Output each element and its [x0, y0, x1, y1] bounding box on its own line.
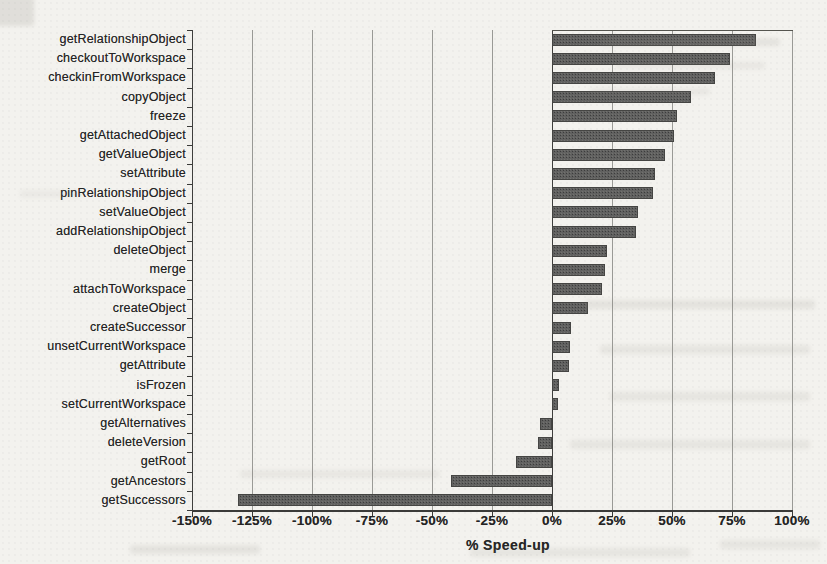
y-axis-tick — [187, 280, 192, 281]
y-axis-tick — [187, 49, 192, 50]
bar-deleteObject — [552, 245, 607, 257]
bar-unsetCurrentWorkspace — [552, 341, 570, 353]
y-axis-tick — [187, 203, 192, 204]
bar-merge — [552, 264, 605, 276]
category-label-setCurrentWorkspace: setCurrentWorkspace — [62, 395, 186, 414]
bar-checkinFromWorkspace — [552, 72, 715, 84]
gridline — [792, 30, 793, 510]
category-label-copyObject: copyObject — [121, 88, 186, 107]
y-axis-tick — [187, 164, 192, 165]
x-axis-title: % Speed-up — [428, 537, 588, 553]
y-axis-tick — [187, 30, 192, 31]
category-label-getAttribute: getAttribute — [120, 356, 186, 375]
y-axis-tick — [187, 88, 192, 89]
category-label-getSuccessors: getSuccessors — [101, 491, 186, 510]
bar-getAttribute — [552, 360, 569, 372]
category-label-attachToWorkspace: attachToWorkspace — [73, 280, 186, 299]
category-label-deleteObject: deleteObject — [113, 241, 186, 260]
gridline — [492, 30, 493, 510]
gridline — [732, 30, 733, 510]
y-axis-tick — [187, 395, 192, 396]
category-label-getRoot: getRoot — [141, 452, 186, 471]
category-label-checkinFromWorkspace: checkinFromWorkspace — [48, 68, 186, 87]
category-label-getValueObject: getValueObject — [99, 145, 186, 164]
bar-getValueObject — [552, 149, 665, 161]
category-label-addRelationshipObject: addRelationshipObject — [56, 222, 186, 241]
plot-top-border — [552, 30, 793, 31]
category-label-checkoutToWorkspace: checkoutToWorkspace — [57, 49, 186, 68]
category-label-getAncestors: getAncestors — [111, 472, 186, 491]
y-axis-tick — [187, 318, 192, 319]
category-label-pinRelationshipObject: pinRelationshipObject — [60, 184, 186, 203]
category-label-createObject: createObject — [113, 299, 186, 318]
bar-getSuccessors — [238, 494, 552, 506]
bar-getAncestors — [451, 475, 552, 487]
bar-addRelationshipObject — [552, 226, 636, 238]
y-axis-tick — [187, 491, 192, 492]
scanned-figure-page: getRelationshipObjectcheckoutToWorkspace… — [0, 0, 827, 564]
y-axis-tick — [187, 337, 192, 338]
gridline — [432, 30, 433, 510]
category-axis-line — [192, 30, 193, 510]
scan-artifact — [0, 0, 34, 26]
y-axis-tick — [187, 126, 192, 127]
bar-createSuccessor — [552, 322, 571, 334]
scan-artifact — [720, 540, 820, 549]
bar-pinRelationshipObject — [552, 187, 653, 199]
y-axis-tick — [187, 433, 192, 434]
x-tick-label-100: 100% — [757, 513, 827, 528]
gridline — [372, 30, 373, 510]
category-label-unsetCurrentWorkspace: unsetCurrentWorkspace — [47, 337, 186, 356]
category-label-setAttribute: setAttribute — [120, 164, 186, 183]
y-axis-tick — [187, 222, 192, 223]
category-label-freeze: freeze — [150, 107, 186, 126]
bar-isFrozen — [552, 379, 559, 391]
y-axis-tick — [187, 260, 192, 261]
y-axis-tick — [187, 414, 192, 415]
bar-attachToWorkspace — [552, 283, 602, 295]
category-label-deleteVersion: deleteVersion — [108, 433, 186, 452]
y-axis-tick — [187, 107, 192, 108]
category-label-setValueObject: setValueObject — [99, 203, 186, 222]
bar-freeze — [552, 110, 677, 122]
y-axis-tick — [187, 376, 192, 377]
category-label-getRelationshipObject: getRelationshipObject — [60, 30, 187, 49]
y-axis-tick — [187, 452, 192, 453]
bar-setValueObject — [552, 206, 638, 218]
bar-setCurrentWorkspace — [552, 398, 558, 410]
plot-area — [192, 30, 792, 510]
bar-getAttachedObject — [552, 130, 674, 142]
bar-getAlternatives — [540, 418, 552, 430]
category-label-merge: merge — [150, 260, 186, 279]
y-axis-tick — [187, 510, 192, 511]
y-axis-tick — [187, 68, 192, 69]
y-axis-tick — [187, 145, 192, 146]
category-label-isFrozen: isFrozen — [136, 376, 186, 395]
gridline — [312, 30, 313, 510]
category-label-getAlternatives: getAlternatives — [100, 414, 186, 433]
y-axis-tick — [187, 472, 192, 473]
bar-getRelationshipObject — [552, 34, 756, 46]
category-label-getAttachedObject: getAttachedObject — [80, 126, 186, 145]
bar-checkoutToWorkspace — [552, 53, 730, 65]
scan-artifact — [130, 545, 260, 554]
y-axis-tick — [187, 241, 192, 242]
gridline — [252, 30, 253, 510]
bar-setAttribute — [552, 168, 655, 180]
category-label-createSuccessor: createSuccessor — [90, 318, 186, 337]
bar-copyObject — [552, 91, 691, 103]
bar-getRoot — [516, 456, 552, 468]
y-axis-tick — [187, 356, 192, 357]
bar-deleteVersion — [538, 437, 552, 449]
y-axis-tick — [187, 299, 192, 300]
bar-createObject — [552, 302, 588, 314]
y-axis-tick — [187, 184, 192, 185]
